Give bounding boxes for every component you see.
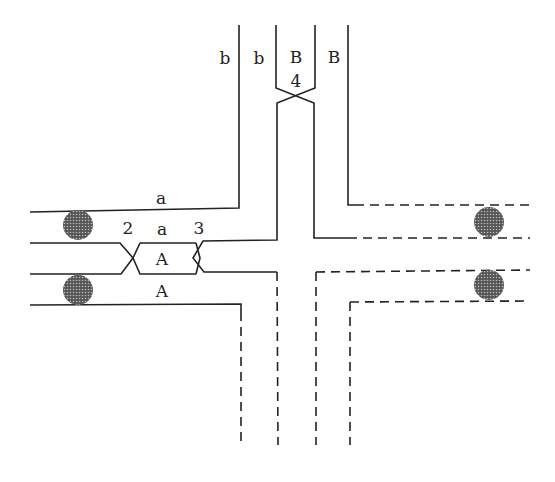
label-A-bottom: A xyxy=(156,283,168,300)
label-a-mid: a xyxy=(157,221,167,238)
label-A-mid: A xyxy=(156,251,168,268)
label-a-top: a xyxy=(156,190,166,207)
label-crossover-4: 4 xyxy=(291,73,302,90)
label-b-left: b xyxy=(220,50,231,67)
strand-A-bottom xyxy=(30,304,241,312)
knob-right-lower xyxy=(474,270,504,300)
knob-left-lower xyxy=(63,275,93,305)
strand-b-a-outer xyxy=(30,25,239,212)
label-crossover-2: 2 xyxy=(123,220,134,237)
label-crossover-3: 3 xyxy=(194,220,205,237)
diagram: b b B B 4 a 2 a 3 A A xyxy=(0,0,555,482)
strand-left-mid xyxy=(30,243,133,274)
label-B-right: B xyxy=(328,49,341,66)
knob-right-upper xyxy=(474,207,504,237)
label-b-right: b xyxy=(254,50,265,67)
label-B-left: B xyxy=(290,49,303,66)
chromosome-lines xyxy=(0,0,555,482)
knob-left-upper xyxy=(63,210,93,240)
strand-B-outer xyxy=(348,25,355,205)
